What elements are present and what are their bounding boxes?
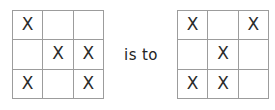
cell-mark: X (217, 75, 229, 92)
right-grid-cell-r3c3[interactable] (239, 70, 269, 99)
right-grid-cell-r1c1[interactable]: X (178, 11, 208, 40)
cell-mark: X (248, 16, 260, 33)
left-grid-cell-r2c1[interactable] (13, 40, 43, 69)
left-grid-cell-r3c2[interactable] (43, 70, 73, 99)
left-grid-cell-r1c3[interactable] (74, 11, 104, 40)
right-grid-cell-r2c3[interactable] (239, 40, 269, 69)
visual-analogy-figure: X X X X X is to X X X X X (0, 0, 275, 110)
right-grid-cell-r2c2[interactable]: X (208, 40, 238, 69)
cell-mark: X (187, 75, 199, 92)
right-grid-cell-r3c2[interactable]: X (208, 70, 238, 99)
cell-mark: X (187, 16, 199, 33)
left-grid-cell-r3c1[interactable]: X (13, 70, 43, 99)
right-grid-cell-r2c1[interactable] (178, 40, 208, 69)
cell-mark: X (22, 16, 34, 33)
left-grid-cell-r3c3[interactable]: X (74, 70, 104, 99)
cell-mark: X (52, 45, 64, 62)
relation-label: is to (105, 38, 177, 72)
right-grid-cell-r1c2[interactable] (208, 11, 238, 40)
right-grid-cell-r1c3[interactable]: X (239, 11, 269, 40)
cell-mark: X (22, 75, 34, 92)
right-grid-cell-r3c1[interactable]: X (178, 70, 208, 99)
left-grid-cell-r2c3[interactable]: X (74, 40, 104, 69)
left-grid-cell-r2c2[interactable]: X (43, 40, 73, 69)
left-grid-cell-r1c1[interactable]: X (13, 11, 43, 40)
cell-mark: X (217, 45, 229, 62)
right-grid: X X X X X (177, 10, 269, 99)
cell-mark: X (83, 45, 95, 62)
left-grid: X X X X X (12, 10, 104, 99)
cell-mark: X (83, 75, 95, 92)
left-grid-cell-r1c2[interactable] (43, 11, 73, 40)
